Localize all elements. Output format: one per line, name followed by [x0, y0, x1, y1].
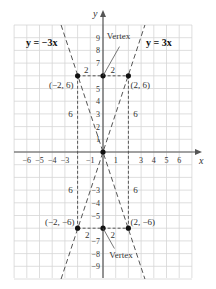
equation-label-left: y = −3x [26, 37, 57, 48]
y-tick-label: −8 [91, 250, 100, 259]
x-tick-label: 6 [177, 156, 181, 165]
x-tick-label: −6 [23, 156, 32, 165]
y-tick-label: −5 [91, 212, 100, 221]
segment-length-label: 6 [68, 109, 73, 119]
x-axis-label: x [198, 155, 204, 166]
y-tick-label: 5 [96, 85, 100, 94]
point-label: (−2, −6) [45, 217, 75, 227]
point-label: (2, −6) [130, 217, 155, 227]
x-tick-label: −5 [35, 156, 44, 165]
vertex-label: Vertex [107, 31, 131, 41]
x-tick-label: 5 [165, 156, 169, 165]
segment-length-label: 2 [85, 230, 90, 240]
vertex-label: Vertex [109, 250, 133, 260]
segment-length-label: 6 [133, 109, 138, 119]
x-tick-label: 3 [139, 156, 143, 165]
data-point [100, 226, 105, 231]
y-tick-label: 2 [96, 123, 100, 132]
y-tick-label: 8 [96, 46, 100, 55]
x-tick-label: −1 [86, 156, 95, 165]
point-label: (2, 6) [130, 80, 150, 90]
y-tick-label: −3 [91, 186, 100, 195]
data-point [75, 73, 80, 78]
data-point [126, 73, 131, 78]
point-label: (−2, 6) [49, 80, 74, 90]
y-tick-label: −9 [91, 262, 100, 271]
y-tick-label: 4 [96, 97, 100, 106]
y-tick-label: 9 [96, 34, 100, 43]
y-tick-label: −7 [91, 237, 100, 246]
axes: xy [14, 8, 204, 278]
segment-length-label: 6 [68, 185, 73, 195]
y-tick-label: 1 [96, 135, 100, 144]
x-tick-label: −4 [48, 156, 57, 165]
segment-length-label: 2 [110, 230, 115, 240]
graph: xy −6−5−4−3−11345698754321−3−4−5−7−8−9 (… [0, 0, 216, 289]
equation-label-right: y = 3x [146, 37, 172, 48]
y-tick-label: −4 [91, 199, 100, 208]
y-tick-label: 3 [96, 110, 100, 119]
x-tick-label: 1 [114, 156, 118, 165]
segment-length-label: 2 [84, 65, 89, 75]
data-point [100, 149, 105, 154]
data-point [75, 226, 80, 231]
y-axis-label: y [92, 8, 98, 19]
x-tick-label: 4 [152, 156, 156, 165]
x-tick-label: −3 [61, 156, 70, 165]
y-tick-label: 7 [96, 59, 100, 68]
segment-length-label: 6 [133, 185, 138, 195]
segment-length-label: 2 [110, 65, 115, 75]
y-axis-arrow-icon [100, 10, 106, 17]
